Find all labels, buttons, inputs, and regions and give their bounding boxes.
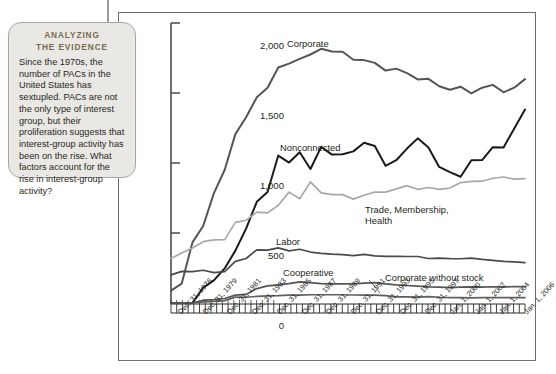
series-label-corporate-without-stock: Corporate without stock <box>385 272 483 283</box>
series-label-labor: Labor <box>276 236 300 247</box>
series-label-nonconnected: Nonconnected <box>280 142 340 153</box>
series-label-cooperative: Cooperative <box>283 267 334 278</box>
series-label-line2: Health <box>365 216 449 227</box>
series-label-corporate: Corporate <box>287 38 329 49</box>
series-label-line1: Trade, Membership, <box>365 205 449 216</box>
series-label-trade-membership-health: Trade, Membership,Health <box>365 205 449 226</box>
